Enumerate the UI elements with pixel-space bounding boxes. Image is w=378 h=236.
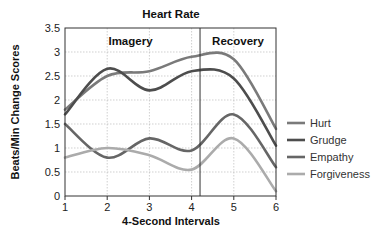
y-tick-label: 1 <box>54 142 60 154</box>
grid-lines <box>65 28 276 196</box>
plot-frame <box>65 28 276 196</box>
heart-rate-chart: Heart Rate Imagery Recovery 00.511.522.5… <box>0 0 378 236</box>
x-tick-label: 4 <box>189 201 195 213</box>
legend-label-hurt: Hurt <box>310 117 331 129</box>
x-tick-label: 1 <box>62 201 68 213</box>
series-line-grudge <box>65 68 276 145</box>
x-axis-label: 4-Second Intervals <box>122 215 220 227</box>
x-axis-ticks: 123456 <box>62 196 279 213</box>
y-tick-label: 3.5 <box>45 22 60 34</box>
legend-label-empathy: Empathy <box>310 151 354 163</box>
y-axis-ticks: 00.511.522.533.5 <box>45 22 60 202</box>
legend-label-grudge: Grudge <box>310 134 347 146</box>
y-tick-label: 0.5 <box>45 166 60 178</box>
x-tick-label: 6 <box>273 201 279 213</box>
phase-label-recovery: Recovery <box>212 35 264 47</box>
y-tick-label: 3 <box>54 46 60 58</box>
y-axis-label: Beats/Min Change Scores <box>9 44 21 179</box>
y-tick-label: 0 <box>54 190 60 202</box>
legend-label-forgiveness: Forgiveness <box>310 168 370 180</box>
legend: HurtGrudgeEmpathyForgiveness <box>287 117 370 180</box>
series-lines <box>65 53 276 192</box>
phase-label-imagery: Imagery <box>108 35 153 47</box>
chart-title: Heart Rate <box>142 8 200 20</box>
x-tick-label: 3 <box>146 201 152 213</box>
y-tick-label: 2.5 <box>45 70 60 82</box>
series-line-empathy <box>65 114 276 167</box>
x-tick-label: 5 <box>231 201 237 213</box>
x-tick-label: 2 <box>104 201 110 213</box>
y-tick-label: 1.5 <box>45 118 60 130</box>
y-tick-label: 2 <box>54 94 60 106</box>
